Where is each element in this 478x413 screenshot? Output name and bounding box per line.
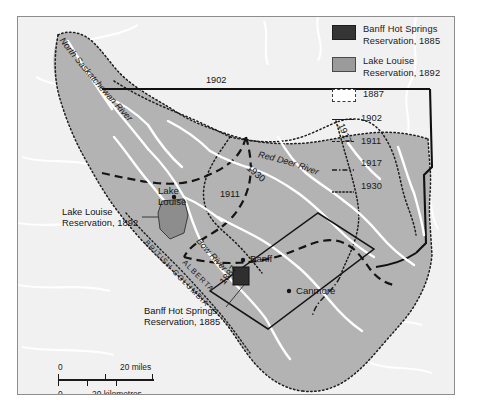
legend-label-1902: 1902 — [361, 113, 382, 125]
legend-label-1917: 1917 — [361, 158, 382, 170]
legend-label-line1: Banff Hot Springs — [363, 24, 440, 36]
scale-miles-labels: 0 20 miles — [58, 362, 208, 373]
place-label-lake-louise-line1: Lake — [158, 185, 179, 197]
scale-bar-kilometres — [58, 380, 154, 387]
place-label-lake-louise-line2: Louise — [158, 196, 186, 208]
legend-label-lake-louise: Lake Louise Reservation, 1892 — [363, 56, 440, 79]
scale-km-max: 20 kilometres — [92, 389, 142, 395]
legend-label-1930: 1930 — [361, 181, 382, 193]
legend-label-line2: Reservation, 1892 — [363, 68, 440, 80]
dash-dot-glyph — [332, 167, 354, 173]
scale-bar-miles — [58, 373, 154, 380]
canmore-town-dot — [287, 289, 291, 293]
solid-line-icon — [332, 114, 354, 124]
scale-km-labels: 0 20 kilometres — [58, 389, 208, 395]
legend-item-banff-hot-springs: Banff Hot Springs Reservation, 1885 — [332, 24, 450, 47]
legend-item-1917: 1917 — [332, 158, 450, 170]
scale-miles-zero: 0 — [58, 362, 63, 372]
legend-item-1902: 1902 — [332, 113, 450, 125]
banff-town-dot — [241, 258, 245, 262]
place-label-canmore: Canmore — [296, 285, 335, 297]
scale-km-zero: 0 — [58, 389, 63, 395]
annotation-banff-hot-springs-line2: Reservation, 1885 — [144, 316, 238, 328]
legend-label-1911: 1911 — [361, 136, 381, 148]
legend-item-1887: 1887 — [332, 88, 450, 102]
gray-fill-swatch-icon — [332, 57, 356, 72]
dotted-line-icon — [332, 181, 354, 191]
legend-item-1930: 1930 — [332, 181, 450, 193]
scale-bar: 0 20 miles 0 20 kilometres — [58, 362, 208, 395]
legend-label-1887: 1887 — [363, 89, 384, 101]
dotted-rectangle-icon — [332, 89, 356, 102]
legend-label-line1: Lake Louise — [363, 56, 440, 68]
boundary-label-1902: 1902 — [206, 75, 226, 87]
dotted-glyph — [332, 189, 354, 195]
annotation-lake-louise-reservation-line1: Lake Louise — [62, 206, 156, 218]
map-figure: North Saskatchewan River Red Deer River … — [0, 0, 478, 413]
legend-item-1911: 1911 — [332, 136, 450, 148]
legend-label-banff-hot-springs: Banff Hot Springs Reservation, 1885 — [363, 24, 440, 47]
legend-item-lake-louise: Lake Louise Reservation, 1892 — [332, 56, 450, 79]
scale-miles-max: 20 miles — [120, 362, 151, 372]
annotation-banff-hot-springs-line1: Banff Hot Springs — [144, 305, 238, 317]
place-label-banff: Banff — [250, 253, 272, 265]
dark-fill-swatch-icon — [332, 25, 356, 40]
boundary-label-1911: 1911 — [220, 189, 240, 201]
legend-label-line2: Reservation, 1885 — [363, 36, 440, 48]
annotation-lake-louise-reservation-line2: Reservation, 1892 — [62, 217, 156, 229]
map-legend: Banff Hot Springs Reservation, 1885 Lake… — [332, 24, 450, 203]
dashed-line-icon — [332, 136, 354, 146]
dash-dot-line-icon — [332, 159, 354, 169]
